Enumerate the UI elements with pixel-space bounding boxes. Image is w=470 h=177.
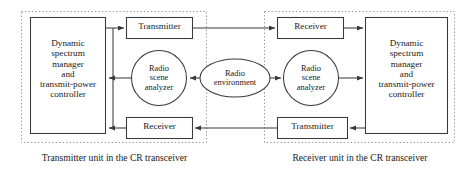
radio-environment-ellipse [200,59,270,97]
left-receiver-box [127,118,193,139]
right-receiver-box [278,18,344,39]
left-transmitter-box [127,18,193,39]
left-analyzer-circle [132,51,187,106]
right-analyzer-circle [284,51,339,106]
right-controller-box [366,18,448,134]
left-controller-box [31,18,106,134]
right-transmitter-box [278,118,348,139]
cognitive-radio-transceiver-diagram: Dynamic spectrum manager and transmit-po… [0,0,470,177]
diagram-vector-layer [0,0,470,177]
